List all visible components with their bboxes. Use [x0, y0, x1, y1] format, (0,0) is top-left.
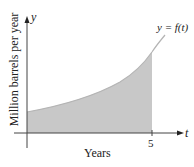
y-axis-title: Million barrels per year: [7, 10, 22, 130]
tick-label-5: 5: [148, 137, 154, 149]
shaded-area-under-curve: [27, 52, 152, 133]
curve-label: y = f(t): [157, 21, 188, 33]
t-axis-arrow-icon: [177, 131, 184, 136]
x-axis-title: Years: [84, 146, 111, 161]
t-axis-letter: t: [185, 126, 188, 141]
y-axis-letter: y: [31, 10, 36, 25]
y-axis-arrow-icon: [25, 16, 30, 23]
